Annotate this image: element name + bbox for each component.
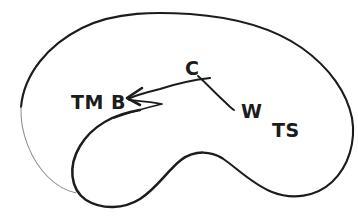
label-tm: TM: [71, 93, 104, 112]
diagram-linework: [0, 0, 358, 222]
label-w: W: [241, 102, 262, 121]
label-b: B: [111, 93, 126, 112]
label-c: C: [185, 59, 199, 78]
inner-lobe-path: [72, 110, 222, 207]
w-leader-line: [198, 76, 234, 110]
outer-boundary-faint-segment: [21, 107, 76, 193]
label-ts: TS: [272, 121, 300, 140]
diagram-canvas: TM B C W TS: [0, 0, 358, 222]
